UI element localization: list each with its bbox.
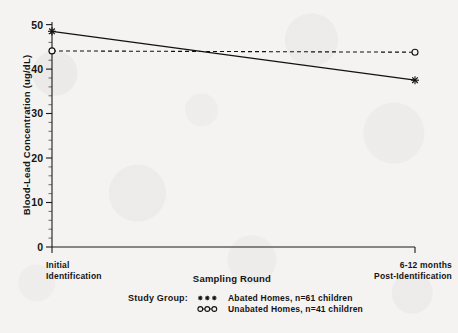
series-abated-marker-initial bbox=[48, 27, 56, 35]
series-abated-line bbox=[52, 31, 415, 80]
x-category-post-line2: Post-Identification bbox=[374, 271, 452, 281]
series-unabated-marker-initial bbox=[49, 48, 55, 54]
legend-item-unabated[interactable]: Unabated Homes, n=41 children bbox=[198, 304, 363, 314]
y-tick-label-20: 20 bbox=[31, 152, 43, 164]
legend-label-unabated: Unabated Homes, n=41 children bbox=[228, 304, 363, 314]
y-tick-label-30: 30 bbox=[31, 107, 43, 119]
legend-marker-star-icon bbox=[198, 296, 217, 301]
legend-label-abated: Abated Homes, n=61 children bbox=[228, 293, 353, 303]
x-category-initial-line2: Identification bbox=[46, 271, 102, 281]
series-unabated-homes bbox=[49, 48, 418, 55]
legend: Study Group: Abated Homes bbox=[128, 293, 363, 314]
legend-marker-circle-icon bbox=[198, 307, 217, 312]
series-abated-homes bbox=[48, 27, 419, 84]
x-axis-title: Sampling Round bbox=[193, 273, 271, 284]
y-axis: 50 40 30 20 10 0 Blood-Lead Concentratio… bbox=[21, 19, 52, 253]
legend-item-abated[interactable]: Abated Homes, n=61 children bbox=[198, 293, 353, 303]
y-tick-label-0: 0 bbox=[37, 241, 43, 253]
line-chart: 50 40 30 20 10 0 Blood-Lead Concentratio… bbox=[0, 0, 458, 333]
series-unabated-marker-post bbox=[412, 49, 418, 55]
y-axis-title: Blood-Lead Concentration (ug/dL) bbox=[21, 55, 32, 216]
legend-title: Study Group: bbox=[128, 293, 188, 303]
x-category-post-line1: 6-12 months bbox=[400, 260, 452, 270]
y-tick-label-40: 40 bbox=[31, 63, 43, 75]
x-category-initial-line1: Initial bbox=[46, 260, 70, 270]
chart-page: 50 40 30 20 10 0 Blood-Lead Concentratio… bbox=[0, 0, 458, 333]
y-tick-label-50: 50 bbox=[31, 19, 43, 31]
series-unabated-line bbox=[52, 51, 415, 52]
series-abated-marker-post bbox=[411, 76, 419, 84]
x-axis bbox=[52, 247, 415, 253]
y-tick-label-10: 10 bbox=[31, 196, 43, 208]
